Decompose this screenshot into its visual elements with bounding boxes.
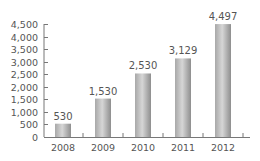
bars: 5301,5302,5303,1294,497	[53, 11, 237, 137]
y-tick-label: 4,500	[11, 19, 38, 30]
bar-2012	[215, 24, 231, 137]
y-tick-label: 2,000	[11, 82, 38, 93]
y-tick-label: 0	[32, 132, 38, 143]
x-tick-label: 2009	[91, 142, 115, 153]
y-tick-label: 3,000	[11, 57, 38, 68]
y-tick-label: 1,000	[11, 107, 38, 118]
value-label: 3,129	[169, 45, 198, 56]
bar-2011	[175, 58, 191, 137]
bar-2009	[95, 99, 111, 137]
y-tick-label: 1,500	[11, 94, 38, 105]
x-tick-label: 2011	[171, 142, 195, 153]
value-label: 4,497	[209, 11, 238, 22]
y-axis: 05001,0001,5002,0002,5003,0003,5004,0004…	[11, 19, 48, 143]
y-tick-label: 500	[20, 119, 38, 130]
x-tick-label: 2010	[131, 142, 155, 153]
y-tick-label: 3,500	[11, 44, 38, 55]
value-label: 530	[53, 111, 72, 122]
x-tick-label: 2012	[211, 142, 235, 153]
bar-2008	[55, 124, 71, 137]
bar-2010	[135, 73, 151, 137]
x-tick-label: 2008	[51, 142, 75, 153]
value-label: 1,530	[89, 86, 118, 97]
y-tick-label: 4,000	[11, 32, 38, 43]
value-label: 2,530	[129, 60, 158, 71]
y-tick-label: 2,500	[11, 69, 38, 80]
bar-chart: 05001,0001,5002,0002,5003,0003,5004,0004…	[0, 0, 260, 161]
